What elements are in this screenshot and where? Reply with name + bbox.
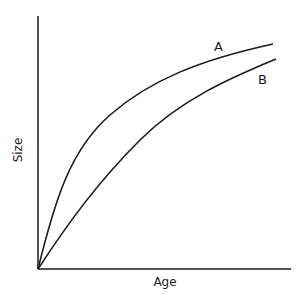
growth-curve-diagram: A B Age Size	[0, 0, 305, 300]
y-axis-label: Size	[11, 138, 25, 163]
curve-a	[38, 44, 273, 269]
curve-b-label: B	[258, 72, 267, 87]
curve-b	[38, 59, 276, 269]
curve-a-label: A	[214, 39, 223, 54]
x-axis-label: Age	[153, 275, 176, 289]
